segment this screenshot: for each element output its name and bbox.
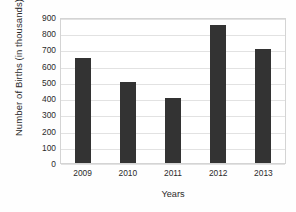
x-tick-label: 2010 [105, 168, 150, 178]
bar-slot [61, 19, 106, 163]
bar [165, 98, 181, 163]
bar-slot [151, 19, 196, 163]
y-tick-label: 300 [42, 111, 56, 119]
bar-slot [240, 19, 285, 163]
y-tick-label: 500 [42, 79, 56, 87]
bar-slot [106, 19, 151, 163]
y-tick-label: 0 [51, 160, 56, 168]
bar-slot [195, 19, 240, 163]
bar [210, 25, 226, 163]
x-axis-tick-labels: 20092010201120122013 [60, 168, 286, 178]
y-tick-label: 700 [42, 46, 56, 54]
bar [75, 58, 91, 163]
y-tick-label: 800 [42, 30, 56, 38]
gridline [61, 164, 285, 165]
y-tick-label: 400 [42, 95, 56, 103]
x-tick-label: 2013 [241, 168, 286, 178]
bar-chart-figure: Number of Births (in thousands) 01002003… [0, 0, 296, 212]
bar-series [61, 19, 285, 163]
y-tick-label: 200 [42, 127, 56, 135]
y-tick-label: 100 [42, 144, 56, 152]
plot-area [60, 18, 286, 164]
y-tick-label: 600 [42, 62, 56, 70]
x-tick-label: 2009 [60, 168, 105, 178]
x-tick-label: 2012 [196, 168, 241, 178]
x-axis-title: Years [60, 189, 286, 199]
y-tick-label: 900 [42, 14, 56, 22]
y-axis-tick-labels: 0100200300400500600700800900 [22, 18, 58, 164]
x-tick-label: 2011 [150, 168, 195, 178]
bar [120, 82, 136, 163]
bar [255, 49, 271, 163]
